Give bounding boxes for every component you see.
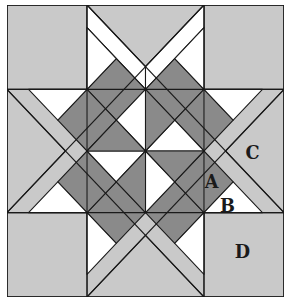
label-A: A: [204, 171, 220, 193]
corner-square-tl: [7, 5, 87, 89]
label-C: C: [246, 142, 260, 164]
label-D: D: [235, 241, 250, 263]
corner-square-bl: [7, 213, 87, 297]
corner-square-tr: [204, 5, 284, 89]
quilt-block-diagram: A B C D: [7, 5, 284, 297]
label-B: B: [220, 194, 235, 216]
